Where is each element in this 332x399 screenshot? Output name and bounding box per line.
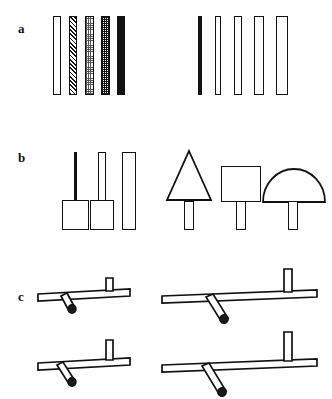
post-c-2 <box>284 269 292 292</box>
bar-a-left-2 <box>69 16 77 95</box>
beam-c-3 <box>38 358 130 370</box>
arm-cap-c-1 <box>68 305 76 313</box>
bar-a-right-1 <box>198 16 202 95</box>
stem-b-5 <box>236 201 246 230</box>
head-rect-b-1 <box>62 200 89 230</box>
bar-a-right-5 <box>276 16 288 95</box>
beam-c-4 <box>162 359 317 372</box>
panel-label-b: b <box>18 151 25 164</box>
post-c-1 <box>106 278 113 291</box>
bar-a-right-3 <box>234 16 242 95</box>
post-c-3 <box>106 340 113 360</box>
scientific-figure: a b <box>0 0 332 399</box>
stem-b-2 <box>98 152 106 202</box>
bar-a-left-4 <box>101 16 110 95</box>
beam-c-1 <box>38 289 130 301</box>
arm-cap-c-4 <box>218 388 226 397</box>
head-triangle-b-4 <box>166 149 214 203</box>
lever-diagram-c-2 <box>160 264 325 322</box>
lever-diagram-c-1 <box>36 272 138 318</box>
arm-cap-c-2 <box>220 315 228 324</box>
stem-b-4 <box>184 201 194 230</box>
panel-label-c: c <box>18 290 24 303</box>
post-c-4 <box>284 332 292 361</box>
bar-a-left-3 <box>85 16 94 95</box>
lever-diagram-c-4 <box>160 329 325 395</box>
stem-b-1 <box>74 152 77 202</box>
panel-label-a: a <box>18 22 25 35</box>
bar-a-right-4 <box>254 16 264 95</box>
bar-a-right-2 <box>215 16 221 95</box>
head-rect-b-2 <box>90 200 114 230</box>
beam-c-2 <box>162 290 317 303</box>
head-semicircle-b-6 <box>261 164 327 204</box>
arm-cap-c-3 <box>68 378 76 386</box>
lever-diagram-c-3 <box>36 337 138 389</box>
bar-a-left-5 <box>117 16 125 95</box>
stem-b-3 <box>122 152 136 230</box>
stem-b-6 <box>288 201 298 230</box>
head-square-b-5 <box>221 166 261 202</box>
bar-a-left-1 <box>53 16 61 95</box>
